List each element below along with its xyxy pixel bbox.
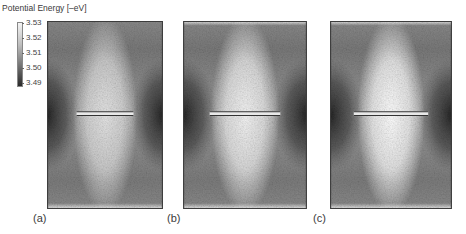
central-bar <box>77 111 134 116</box>
colorbar-tick-label: 3.53 <box>26 19 42 27</box>
energy-map-svg <box>47 21 163 209</box>
colorbar <box>17 22 23 87</box>
colorbar-tick <box>22 23 24 24</box>
panel-label-a: (a) <box>33 212 46 224</box>
panel-label-c: (c) <box>313 212 326 224</box>
colorbar-tick <box>22 83 24 84</box>
panel-label-b: (b) <box>167 212 180 224</box>
colorbar-tick-label: 3.52 <box>26 34 42 42</box>
colorbar-tick-label: 3.51 <box>26 49 42 57</box>
panel-c-energy-map <box>330 21 452 209</box>
central-bar <box>210 111 281 116</box>
central-bar <box>354 111 428 116</box>
energy-map-svg <box>183 21 307 209</box>
colorbar-tick-label: 3.50 <box>26 64 42 72</box>
colorbar-tick <box>22 53 24 54</box>
panel-b-energy-map <box>183 21 307 209</box>
colorbar-tick-label: 3.49 <box>26 79 42 87</box>
colorbar-tick <box>22 38 24 39</box>
colorbar-title: Potential Energy [–eV] <box>2 3 87 13</box>
colorbar-tick <box>22 68 24 69</box>
panel-a-energy-map <box>47 21 163 209</box>
energy-map-svg <box>330 21 452 209</box>
